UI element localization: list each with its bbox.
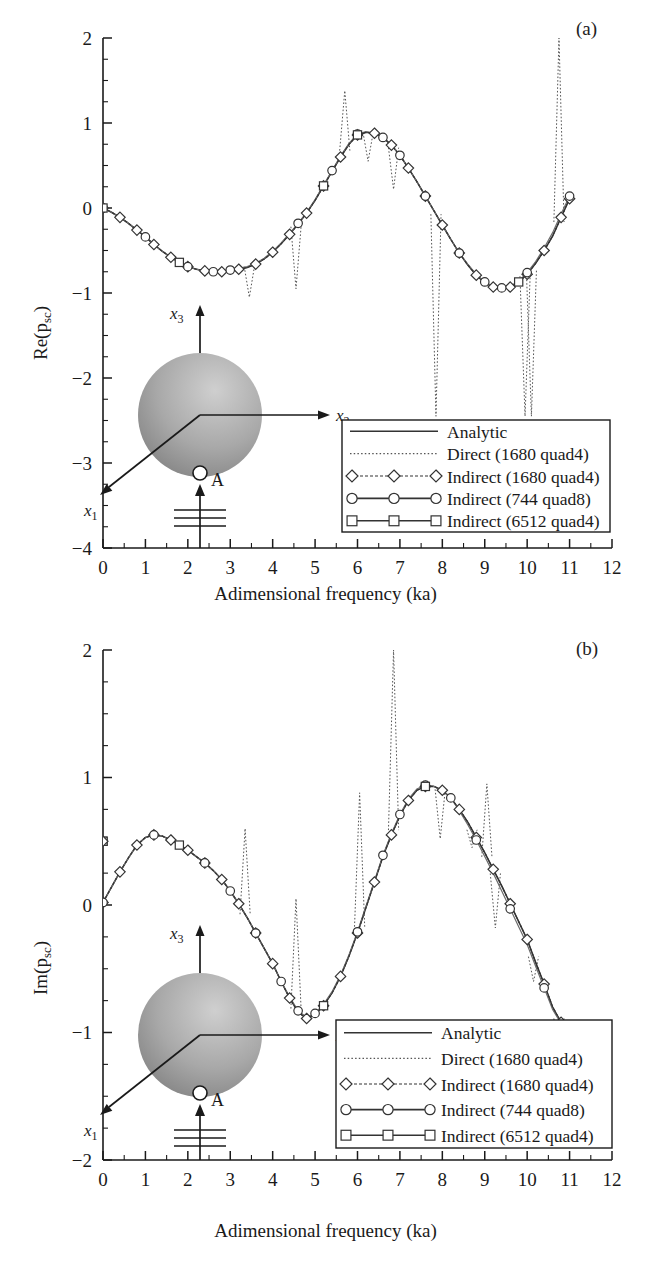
resonance-spike (482, 784, 492, 857)
data-marker-circle (565, 192, 574, 201)
x-tick-label: 4 (268, 1169, 278, 1190)
inset-point-a-label: A (211, 1090, 224, 1110)
data-marker-diamond (234, 899, 244, 909)
y-tick-label: −1 (72, 283, 92, 304)
x-tick-label: 7 (395, 557, 405, 578)
data-marker-square (341, 1130, 351, 1140)
inset-point-a-label: A (211, 470, 224, 490)
y-tick-label: −2 (72, 368, 92, 389)
x-tick-label: 10 (518, 1169, 537, 1190)
panel-a-y-axis-title: Re(psc) (30, 306, 55, 360)
x-tick-label: 8 (438, 1169, 448, 1190)
legend: AnalyticDirect (1680 quad4)Indirect (168… (342, 420, 610, 532)
x-tick-label: 11 (560, 557, 578, 578)
data-marker-diamond (403, 163, 413, 173)
legend-item-label: Indirect (1680 quad4) (447, 467, 600, 487)
resonance-spike (363, 133, 373, 162)
panel-b: 0123456789101112−2−1012x3x2x1AAnalyticDi… (0, 620, 651, 1266)
data-marker-square (319, 1002, 327, 1010)
panel-b-x-axis-title: Adimensional frequency (ka) (0, 1220, 651, 1242)
data-marker-circle (251, 929, 260, 938)
data-marker-square (515, 278, 523, 286)
x-tick-label: 12 (603, 557, 622, 578)
inset-axis-x3-label: x3 (169, 304, 184, 326)
resonance-spike (554, 38, 564, 222)
data-marker-square (421, 782, 429, 790)
y-tick-label: −1 (72, 1022, 92, 1043)
data-marker-circle (396, 810, 405, 819)
data-marker-circle (455, 249, 464, 257)
data-marker-square (175, 841, 183, 849)
data-marker-diamond (234, 264, 244, 274)
data-marker-circle (481, 278, 490, 287)
data-marker-circle (294, 219, 303, 228)
data-marker-circle (341, 1105, 351, 1115)
x-tick-label: 8 (438, 557, 448, 578)
y-tick-label: 0 (83, 198, 93, 219)
y-tick-label: 0 (83, 895, 93, 916)
data-marker-circle (294, 1007, 303, 1016)
data-marker-circle (99, 898, 108, 907)
panel-b-svg: 0123456789101112−2−1012x3x2x1AAnalyticDi… (0, 620, 651, 1266)
x-tick-label: 6 (353, 557, 363, 578)
data-marker-circle (328, 166, 337, 175)
resonance-spike (388, 650, 398, 830)
data-marker-circle (201, 859, 210, 868)
x-tick-label: 2 (183, 557, 193, 578)
panel-a-x-axis-title: Adimensional frequency (ka) (0, 583, 651, 605)
inset-point-a-marker (193, 466, 207, 480)
inset-sphere-diagram: x3x2x1A (83, 924, 350, 1160)
data-marker-circle (277, 977, 286, 986)
data-marker-circle (447, 794, 456, 803)
panel-b-plot-area: 0123456789101112−2−1012x3x2x1AAnalyticDi… (0, 620, 651, 1266)
data-marker-square (175, 258, 183, 266)
y-tick-label: 2 (83, 640, 93, 661)
markers-group (98, 128, 575, 292)
resonance-spike (520, 276, 530, 416)
resonance-spike (435, 789, 445, 838)
panel-b-y-axis-title: Im(psc) (30, 941, 55, 995)
x-tick-label: 0 (98, 1169, 108, 1190)
resonance-spike (431, 214, 441, 416)
x-tick-label: 3 (226, 557, 236, 578)
data-marker-square (319, 182, 327, 190)
data-marker-circle (396, 151, 405, 160)
data-marker-circle (506, 905, 515, 914)
x-tick-label: 10 (518, 557, 537, 578)
y-tick-label: −2 (72, 1150, 92, 1171)
x-tick-label: 1 (141, 1169, 151, 1190)
inset-point-a-marker (193, 1086, 207, 1100)
x-tick-label: 2 (183, 1169, 193, 1190)
data-marker-circle (425, 1105, 435, 1115)
data-marker-circle (497, 284, 506, 293)
series-indirect-744-quad8 (103, 132, 570, 288)
data-marker-diamond (200, 266, 210, 276)
data-marker-circle (226, 887, 235, 896)
data-marker-diamond (488, 282, 498, 292)
panel-a-svg: 0123456789101112−4−3−2−1012x3x2x1AAnalyt… (0, 0, 651, 620)
y-tick-label: −4 (72, 538, 93, 559)
data-marker-circle (209, 268, 218, 277)
legend-item-label: Analytic (447, 422, 507, 442)
x-tick-label: 9 (480, 1169, 490, 1190)
panel-a-y-axis-title-close: ) (30, 306, 51, 312)
figure-page: 0123456789101112−4−3−2−1012x3x2x1AAnalyt… (0, 0, 651, 1266)
resonance-spike (355, 793, 365, 927)
panel-b-y-axis-title-sub: sc (39, 947, 54, 958)
data-marker-diamond (166, 835, 176, 845)
data-marker-diamond (369, 877, 379, 887)
x-tick-label: 5 (310, 1169, 320, 1190)
x-tick-label: 5 (310, 557, 320, 578)
x-tick-label: 9 (480, 557, 490, 578)
data-marker-circle (353, 928, 362, 937)
data-marker-square (347, 516, 357, 526)
data-marker-diamond (115, 212, 125, 222)
data-marker-circle (383, 1105, 393, 1115)
resonance-spike (291, 899, 301, 1009)
data-marker-circle (347, 493, 357, 503)
data-marker-circle (226, 266, 235, 275)
data-marker-circle (150, 831, 159, 840)
legend-item-label: Indirect (744 quad8) (441, 1100, 585, 1120)
inset-axis-x1-label: x1 (83, 1121, 98, 1143)
legend: AnalyticDirect (1680 quad4)Indirect (168… (336, 1020, 612, 1148)
